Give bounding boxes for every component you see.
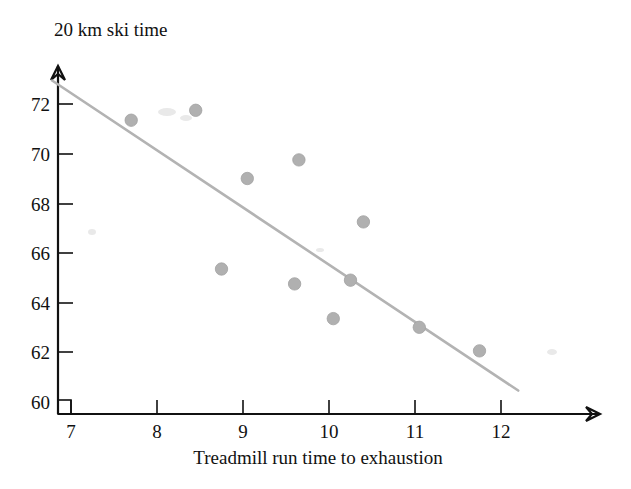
paper-artifacts bbox=[88, 108, 557, 355]
x-axis bbox=[58, 400, 600, 421]
x-tick-label-8: 8 bbox=[152, 421, 162, 442]
y-tick-label-70: 70 bbox=[31, 144, 50, 165]
data-point bbox=[190, 104, 202, 116]
regression-line bbox=[52, 81, 518, 391]
data-point bbox=[473, 345, 485, 357]
data-point bbox=[327, 312, 339, 324]
x-tick-label-11: 11 bbox=[406, 421, 424, 442]
x-tick-label-7: 7 bbox=[66, 421, 76, 442]
y-axis-title: 20 km ski time bbox=[54, 19, 167, 40]
y-tick-label-68: 68 bbox=[31, 194, 50, 215]
y-tick-labels: 60 62 64 66 68 70 72 bbox=[31, 94, 51, 413]
x-tick-label-9: 9 bbox=[238, 421, 248, 442]
x-tick-labels: 7 8 9 10 11 12 bbox=[66, 421, 510, 442]
y-tick-label-60: 60 bbox=[31, 392, 50, 413]
y-axis bbox=[51, 66, 73, 414]
data-point bbox=[215, 263, 227, 275]
data-point bbox=[288, 278, 300, 290]
scatter-markers bbox=[125, 104, 486, 357]
chart-canvas: 60 62 64 66 68 70 72 7 8 9 10 11 12 20 k… bbox=[0, 0, 631, 489]
y-tick-label-66: 66 bbox=[31, 243, 50, 264]
x-axis-title: Treadmill run time to exhaustion bbox=[193, 447, 443, 468]
data-point bbox=[125, 114, 137, 126]
x-tick-label-12: 12 bbox=[492, 421, 511, 442]
y-tick-label-72: 72 bbox=[31, 94, 50, 115]
y-tick-label-64: 64 bbox=[31, 293, 51, 314]
scatter-plot-figure: 60 62 64 66 68 70 72 7 8 9 10 11 12 20 k… bbox=[0, 0, 631, 489]
x-tick-label-10: 10 bbox=[320, 421, 339, 442]
y-tick-label-62: 62 bbox=[31, 342, 50, 363]
data-point bbox=[241, 172, 253, 184]
data-point bbox=[413, 321, 425, 333]
data-point bbox=[293, 154, 305, 166]
data-point bbox=[357, 216, 369, 228]
data-point bbox=[344, 274, 356, 286]
